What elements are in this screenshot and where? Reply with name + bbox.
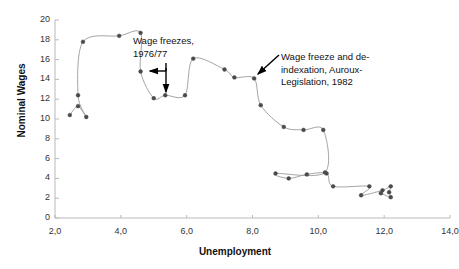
- data-point-marker: [359, 193, 363, 197]
- x-tick-label: 8,0: [233, 226, 273, 236]
- x-tick-label: 6,0: [167, 226, 207, 236]
- y-axis-title: Nominal Wages: [16, 49, 27, 153]
- data-point-marker: [259, 103, 263, 107]
- x-tick-label: 14,0: [430, 226, 459, 236]
- data-point-marker: [81, 40, 85, 44]
- annotation-wage-freezes: Wage freezes, 1976/77: [133, 35, 223, 60]
- x-tick-label: 10,0: [298, 226, 338, 236]
- data-point-marker: [152, 96, 156, 100]
- data-point-marker: [163, 93, 167, 97]
- data-point-marker: [331, 184, 335, 188]
- x-axis-title: Unemployment: [150, 246, 320, 257]
- data-point-marker: [117, 34, 121, 38]
- x-tick-label: 4,0: [101, 226, 141, 236]
- data-point-marker: [76, 93, 80, 97]
- data-point-marker: [305, 173, 309, 177]
- y-tick-label: 4: [20, 172, 50, 182]
- data-point-marker: [232, 76, 236, 80]
- x-tick-label: 12,0: [364, 226, 404, 236]
- data-point-marker: [389, 184, 393, 188]
- auroux-arrow: [258, 55, 279, 74]
- y-tick-label: 20: [20, 14, 50, 24]
- y-tick-label: 18: [20, 34, 50, 44]
- data-point-marker: [367, 184, 371, 188]
- data-point-marker: [183, 93, 187, 97]
- data-point-marker: [379, 191, 383, 195]
- data-point-marker: [287, 177, 291, 181]
- y-tick-label: 6: [20, 153, 50, 163]
- data-point-marker: [252, 77, 256, 81]
- data-point-marker: [325, 172, 329, 176]
- data-point-marker: [387, 190, 391, 194]
- data-point-marker: [274, 172, 278, 176]
- data-point-marker: [68, 113, 72, 117]
- data-point-marker: [139, 70, 143, 74]
- data-point-marker: [223, 68, 227, 72]
- y-tick-label: 0: [20, 212, 50, 222]
- y-axis-ticks: [55, 20, 59, 218]
- chart-container: 024681012141618202,04,06,08,010,012,014,…: [0, 0, 459, 269]
- x-tick-label: 2,0: [35, 226, 75, 236]
- y-tick-label: 2: [20, 192, 50, 202]
- data-point-marker: [84, 115, 88, 119]
- data-point-marker: [389, 195, 393, 199]
- data-point-marker: [321, 128, 325, 132]
- annotation-arrows: [150, 55, 279, 92]
- data-point-marker: [282, 125, 286, 129]
- annotation-auroux: Wage freeze and de- indexation, Auroux- …: [281, 51, 401, 89]
- data-point-marker: [302, 128, 306, 132]
- data-point-marker: [76, 104, 80, 108]
